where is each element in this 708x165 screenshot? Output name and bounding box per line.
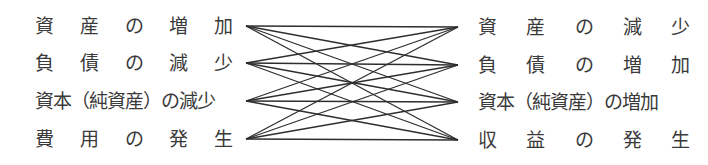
connector-line <box>246 139 458 140</box>
connector-line <box>246 102 458 139</box>
connection-lines <box>0 0 708 165</box>
connector-line <box>246 27 458 101</box>
connector-line <box>246 26 458 27</box>
